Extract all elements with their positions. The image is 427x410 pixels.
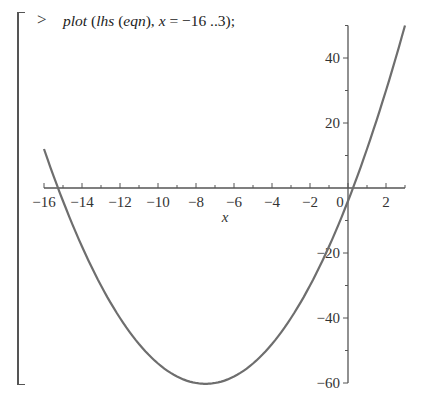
y-tick-label: −40: [317, 310, 340, 326]
x-tick-label: −4: [264, 194, 280, 210]
plot-curve: [44, 26, 405, 384]
x-axis-label: x: [221, 209, 229, 225]
y-tick-label: 40: [325, 50, 340, 66]
x-tick-label: −8: [188, 194, 204, 210]
y-tick-label: 20: [325, 115, 340, 131]
x-tick-label: −6: [226, 194, 242, 210]
x-tick-label: −14: [70, 194, 94, 210]
x-tick-label: 2: [382, 194, 390, 210]
x-tick-label: −12: [108, 194, 131, 210]
x-tick-label: 0: [336, 194, 344, 210]
x-tick-label: −10: [146, 194, 169, 210]
plot-area[interactable]: −16−14−12−10−8−6−4−2024020−20−40−60x: [0, 0, 427, 410]
x-tick-label: −2: [302, 194, 318, 210]
y-tick-label: −60: [317, 375, 340, 391]
x-tick-label: −16: [32, 194, 56, 210]
